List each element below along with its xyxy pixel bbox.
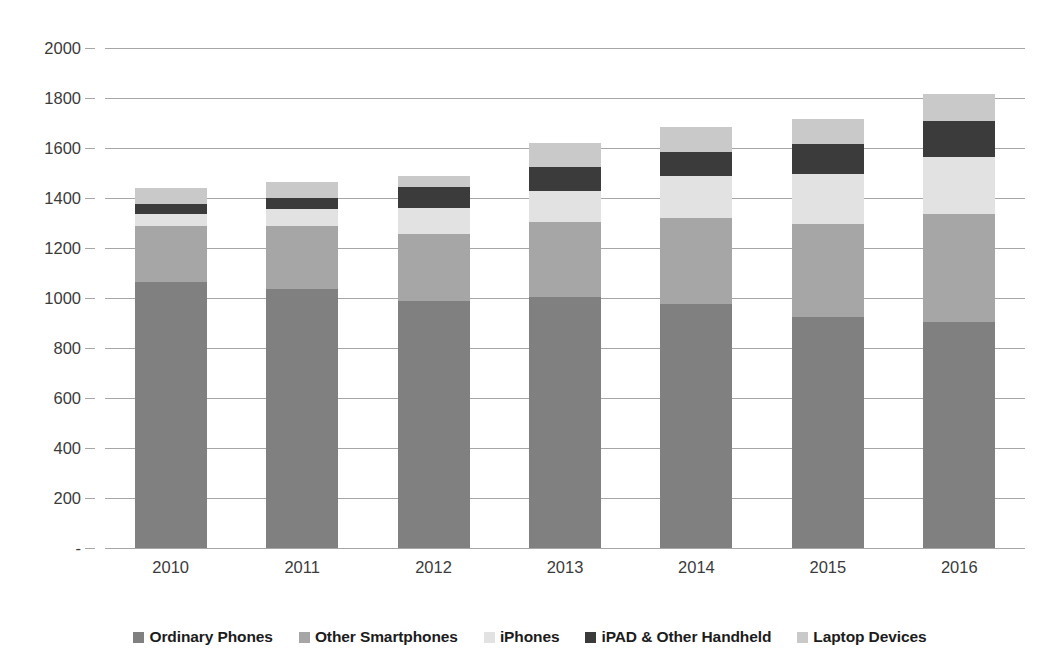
y-tickmark <box>85 448 95 449</box>
legend-label: Ordinary Phones <box>149 628 272 646</box>
y-axis-tick-label: 1000 <box>44 289 81 308</box>
bar-segment[interactable] <box>792 174 864 224</box>
bar-segment[interactable] <box>266 209 338 225</box>
x-axis-tick-label-2010: 2010 <box>105 558 236 577</box>
bar-segment[interactable] <box>660 218 732 304</box>
x-axis-tick-label-2013: 2013 <box>499 558 630 577</box>
x-axis: 2010201120122013201420152016 <box>105 552 1025 586</box>
y-axis-tick-label: - <box>76 539 82 558</box>
bar-segment[interactable] <box>135 214 207 225</box>
bar-segment[interactable] <box>792 144 864 174</box>
bar-segment[interactable] <box>135 204 207 214</box>
y-tickmark <box>85 248 95 249</box>
bar-segment[interactable] <box>923 214 995 322</box>
bar-segment[interactable] <box>923 94 995 120</box>
y-axis-tick-label: 2000 <box>44 39 81 58</box>
legend-swatch-icon <box>133 632 144 643</box>
legend-swatch-icon <box>484 632 495 643</box>
legend-label: Other Smartphones <box>315 628 458 646</box>
bar-segment[interactable] <box>398 234 470 300</box>
y-tickmark <box>85 298 95 299</box>
bar-segment[interactable] <box>660 127 732 152</box>
bar-2014[interactable] <box>660 48 732 548</box>
bar-segment[interactable] <box>923 322 995 548</box>
bar-segment[interactable] <box>792 119 864 144</box>
y-tickmark <box>85 48 95 49</box>
y-tickmark <box>85 348 95 349</box>
bar-segment[interactable] <box>529 297 601 548</box>
bar-2012[interactable] <box>398 48 470 548</box>
chart-legend: Ordinary PhonesOther SmartphonesiPhonesi… <box>0 622 1060 652</box>
bar-2013[interactable] <box>529 48 601 548</box>
y-axis-tick-label: 1600 <box>44 139 81 158</box>
bar-segment[interactable] <box>529 143 601 167</box>
y-tickmark <box>85 398 95 399</box>
y-tickmark <box>85 498 95 499</box>
y-tickmark <box>85 98 95 99</box>
bar-segment[interactable] <box>266 198 338 209</box>
bar-segment[interactable] <box>398 176 470 187</box>
bar-segment[interactable] <box>266 289 338 548</box>
y-tickmark <box>85 148 95 149</box>
bar-segment[interactable] <box>529 191 601 222</box>
x-axis-tick-label-2011: 2011 <box>236 558 367 577</box>
bar-segment[interactable] <box>792 224 864 317</box>
legend-label: iPhones <box>500 628 560 646</box>
bar-segment[interactable] <box>266 226 338 290</box>
gridline-0 <box>105 548 1025 549</box>
legend-item-3[interactable]: iPAD & Other Handheld <box>585 628 771 646</box>
bar-segment[interactable] <box>923 121 995 157</box>
y-tickmark <box>85 198 95 199</box>
x-axis-tick-label-2014: 2014 <box>631 558 762 577</box>
bar-segment[interactable] <box>660 152 732 176</box>
y-axis-tick-label: 1200 <box>44 239 81 258</box>
bar-segment[interactable] <box>923 157 995 215</box>
bar-segment[interactable] <box>266 182 338 198</box>
bar-segment[interactable] <box>660 176 732 219</box>
bar-segment[interactable] <box>529 222 601 297</box>
stacked-bar-chart: -200400600800100012001400160018002000 20… <box>0 0 1060 665</box>
y-axis-tick-label: 400 <box>53 439 81 458</box>
y-axis-tick-label: 600 <box>53 389 81 408</box>
bar-segment[interactable] <box>135 282 207 548</box>
y-axis-tick-label: 800 <box>53 339 81 358</box>
y-axis-tick-label: 200 <box>53 489 81 508</box>
legend-swatch-icon <box>299 632 310 643</box>
legend-swatch-icon <box>797 632 808 643</box>
bar-segment[interactable] <box>398 301 470 549</box>
x-axis-tick-label-2016: 2016 <box>894 558 1025 577</box>
plot-area <box>105 48 1025 548</box>
bar-segment[interactable] <box>792 317 864 548</box>
bar-segment[interactable] <box>398 208 470 234</box>
bar-segment[interactable] <box>135 188 207 204</box>
bar-segment[interactable] <box>529 167 601 191</box>
legend-label: Laptop Devices <box>813 628 926 646</box>
legend-item-2[interactable]: iPhones <box>484 628 560 646</box>
legend-label: iPAD & Other Handheld <box>601 628 771 646</box>
y-axis-tick-label: 1800 <box>44 89 81 108</box>
x-axis-tick-label-2015: 2015 <box>762 558 893 577</box>
legend-item-4[interactable]: Laptop Devices <box>797 628 926 646</box>
bar-2015[interactable] <box>792 48 864 548</box>
y-tickmark <box>85 548 95 549</box>
bar-segment[interactable] <box>398 187 470 208</box>
x-axis-tick-label-2012: 2012 <box>368 558 499 577</box>
bar-segment[interactable] <box>135 226 207 282</box>
legend-item-0[interactable]: Ordinary Phones <box>133 628 272 646</box>
bar-2016[interactable] <box>923 48 995 548</box>
y-axis-tick-label: 1400 <box>44 189 81 208</box>
legend-item-1[interactable]: Other Smartphones <box>299 628 458 646</box>
legend-swatch-icon <box>585 632 596 643</box>
bar-2010[interactable] <box>135 48 207 548</box>
y-axis: -200400600800100012001400160018002000 <box>0 48 95 548</box>
bar-2011[interactable] <box>266 48 338 548</box>
bar-segment[interactable] <box>660 304 732 548</box>
